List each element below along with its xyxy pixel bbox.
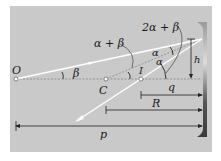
label-beta: β — [72, 67, 79, 80]
label-object: O — [12, 64, 21, 77]
label-p: p — [100, 128, 107, 141]
label-r: R — [151, 97, 160, 110]
label-h: h — [194, 54, 200, 65]
point-image — [139, 77, 143, 81]
point-object — [14, 77, 18, 81]
mirror-diagram: O C I β α + β 2α + β α α h q R p — [0, 0, 221, 161]
label-alpha-bottom: α — [156, 56, 163, 67]
point-center — [104, 77, 108, 81]
label-alpha-plus-beta: α + β — [94, 37, 124, 50]
label-q: q — [168, 81, 175, 94]
label-center: C — [99, 84, 108, 97]
label-2alpha-plus-beta: 2α + β — [141, 21, 179, 34]
